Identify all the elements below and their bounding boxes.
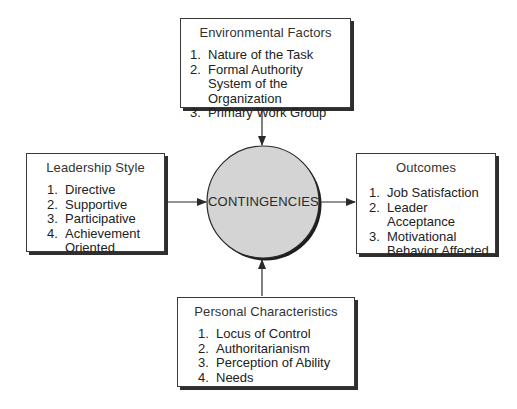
list-item: 3. Perception of Ability — [198, 356, 354, 371]
item-number: 1. — [47, 183, 65, 198]
list-item: 2. Supportive — [47, 198, 164, 213]
item-text: Nature of the Task — [208, 48, 313, 63]
item-text: Needs — [216, 371, 254, 386]
item-text: Formal Authority System of the Organizat… — [208, 63, 343, 107]
list-item: 3. Primary Work Group — [190, 106, 350, 121]
environmental-factors-title: Environmental Factors — [181, 25, 350, 40]
list-item: 2. Leader Acceptance — [369, 201, 495, 230]
item-number: 3. — [198, 356, 216, 371]
leadership-style-list: 1. Directive 2. Supportive 3. Participat… — [47, 183, 164, 256]
outcomes-title: Outcomes — [357, 160, 495, 175]
item-text: Perception of Ability — [216, 356, 330, 371]
personal-characteristics-title: Personal Characteristics — [178, 304, 354, 319]
list-item: 1. Locus of Control — [198, 327, 354, 342]
item-text: Directive — [65, 183, 116, 198]
item-number: 2. — [369, 201, 387, 230]
item-text: Supportive — [65, 198, 127, 213]
list-item: 3. Motivational Behavior Affected — [369, 230, 495, 259]
list-item: 3. Participative — [47, 212, 164, 227]
item-text: Leader Acceptance — [387, 201, 495, 230]
list-item: 4. Needs — [198, 371, 354, 386]
item-number: 2. — [190, 63, 208, 107]
list-item: 2. Authoritarianism — [198, 342, 354, 357]
item-number: 1. — [369, 186, 387, 201]
item-text: Authoritarianism — [216, 342, 310, 357]
environmental-factors-list: 1. Nature of the Task 2. Formal Authorit… — [190, 48, 350, 121]
environmental-factors-box: Environmental Factors 1. Nature of the T… — [180, 18, 351, 108]
leadership-style-title: Leadership Style — [27, 160, 164, 175]
item-text: Primary Work Group — [208, 106, 326, 121]
item-number: 3. — [47, 212, 65, 227]
item-number: 3. — [190, 106, 208, 121]
list-item: 1. Nature of the Task — [190, 48, 350, 63]
item-text: Participative — [65, 212, 136, 227]
list-item: 4. Achievement Oriented — [47, 227, 164, 256]
item-number: 3. — [369, 230, 387, 259]
item-text: Job Satisfaction — [387, 186, 479, 201]
list-item: 2. Formal Authority System of the Organi… — [190, 63, 350, 107]
item-text: Motivational Behavior Affected — [387, 230, 492, 259]
list-item: 1. Directive — [47, 183, 164, 198]
item-number: 1. — [190, 48, 208, 63]
center-node-label: CONTINGENCIES — [207, 194, 320, 209]
item-number: 2. — [47, 198, 65, 213]
outcomes-list: 1. Job Satisfaction 2. Leader Acceptance… — [369, 186, 495, 259]
item-text: Locus of Control — [216, 327, 311, 342]
item-number: 4. — [47, 227, 65, 256]
outcomes-box: Outcomes 1. Job Satisfaction 2. Leader A… — [356, 153, 496, 254]
personal-characteristics-box: Personal Characteristics 1. Locus of Con… — [177, 297, 355, 387]
item-number: 4. — [198, 371, 216, 386]
item-number: 1. — [198, 327, 216, 342]
list-item: 1. Job Satisfaction — [369, 186, 495, 201]
item-number: 2. — [198, 342, 216, 357]
personal-characteristics-list: 1. Locus of Control 2. Authoritarianism … — [198, 327, 354, 385]
item-text: Achievement Oriented — [65, 227, 155, 256]
leadership-style-box: Leadership Style 1. Directive 2. Support… — [26, 153, 165, 252]
